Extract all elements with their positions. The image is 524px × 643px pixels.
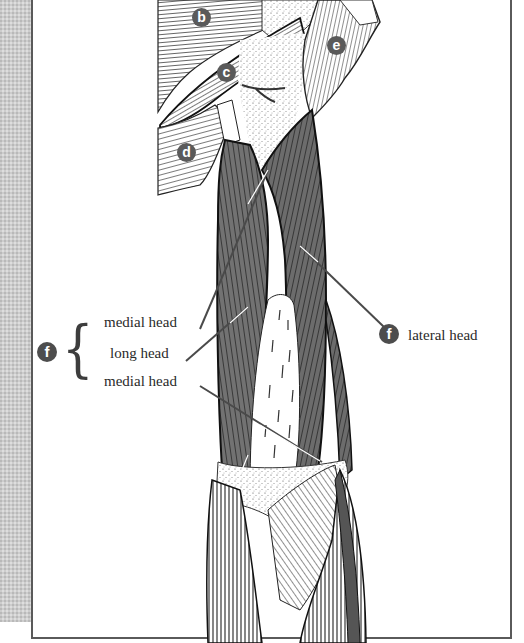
label-long-head: long head xyxy=(110,346,169,361)
label-badge-f-lateral: f xyxy=(379,324,399,344)
label-badge-b: b xyxy=(192,8,211,27)
label-medial-head-upper: medial head xyxy=(104,315,177,330)
label-medial-head-lower: medial head xyxy=(104,374,177,389)
curly-brace-icon: { xyxy=(62,318,94,380)
label-badge-e: e xyxy=(327,36,346,55)
label-badge-f-triceps: f xyxy=(37,342,57,362)
badge-letter: f xyxy=(387,325,392,342)
label-lateral-head: lateral head xyxy=(408,328,478,343)
badge-letter: e xyxy=(333,37,341,53)
badge-letter: d xyxy=(182,144,191,160)
label-badge-d: d xyxy=(177,143,196,162)
lateral-edge-muscle xyxy=(326,300,352,480)
badge-letter: c xyxy=(223,64,231,80)
badge-letter: f xyxy=(45,343,50,360)
label-badge-c: c xyxy=(217,63,236,82)
badge-letter: b xyxy=(197,9,206,25)
